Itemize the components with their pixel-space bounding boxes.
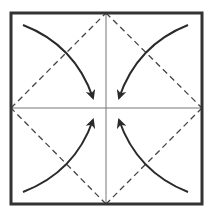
fold-diagram-svg: [0, 0, 215, 222]
origami-diagram: [0, 0, 215, 222]
crease-lines: [12, 14, 201, 203]
